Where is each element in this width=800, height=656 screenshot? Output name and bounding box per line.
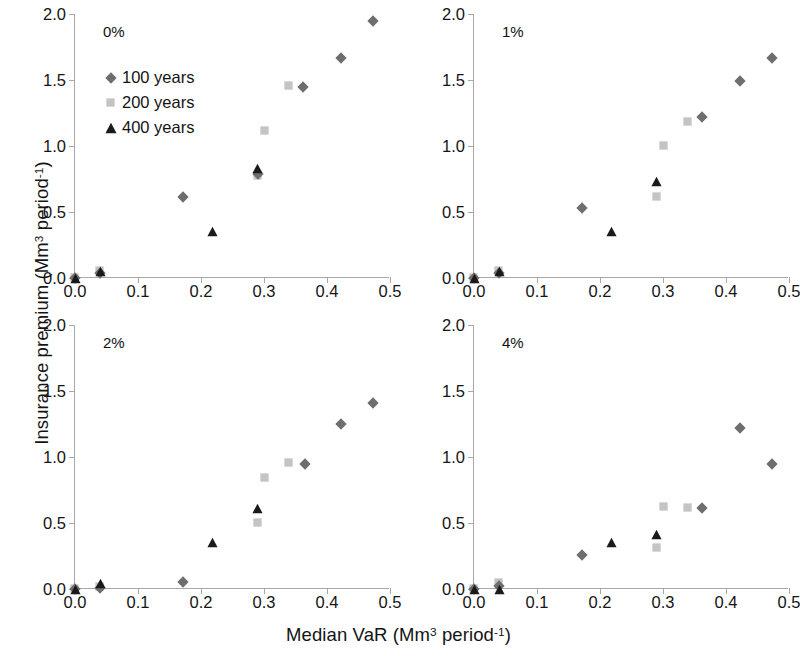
data-point-square bbox=[260, 473, 269, 482]
panel-label: 0% bbox=[103, 23, 125, 40]
data-point-triangle bbox=[95, 266, 106, 277]
plot-area: 0.00.51.01.52.00.00.10.20.30.40.5 bbox=[74, 325, 389, 589]
data-point-diamond bbox=[734, 75, 746, 87]
x-axis-tick-label: 0.4 bbox=[715, 593, 738, 612]
x-axis-tick-label: 0.1 bbox=[526, 282, 549, 301]
data-point-diamond bbox=[335, 52, 347, 64]
x-axis-tick-label: 0.0 bbox=[463, 593, 486, 612]
data-point-triangle bbox=[252, 503, 263, 514]
data-point-square bbox=[253, 518, 262, 527]
y-axis-tick bbox=[468, 391, 474, 392]
y-axis-tick-label: 1.5 bbox=[43, 71, 66, 90]
x-axis-tick-label: 0.5 bbox=[778, 282, 800, 301]
chart-panel-0pct: 0.00.51.01.52.00.00.10.20.30.40.5 0% 100… bbox=[74, 14, 389, 278]
y-axis-tick-label: 0.5 bbox=[442, 514, 465, 533]
y-axis-tick bbox=[69, 325, 75, 326]
y-axis-tick bbox=[69, 146, 75, 147]
y-axis-tick-label: 2.0 bbox=[43, 316, 66, 335]
y-axis-tick-label: 1.5 bbox=[43, 382, 66, 401]
y-axis-tick-label: 0.5 bbox=[442, 203, 465, 222]
x-axis-tick-label: 0.1 bbox=[127, 282, 150, 301]
legend-item-label: 200 years bbox=[122, 93, 194, 112]
y-axis-tick-label: 1.0 bbox=[43, 137, 66, 156]
x-axis-tick-label: 0.5 bbox=[379, 593, 402, 612]
y-axis-tick-label: 1.0 bbox=[442, 137, 465, 156]
chart-panel-2pct: 0.00.51.01.52.00.00.10.20.30.40.5 2% bbox=[74, 325, 389, 589]
y-axis-tick-label: 0.5 bbox=[43, 203, 66, 222]
data-point-triangle bbox=[95, 578, 106, 589]
panel-label: 2% bbox=[103, 334, 125, 351]
data-point-square bbox=[260, 126, 269, 135]
y-axis-tick bbox=[69, 212, 75, 213]
legend-item-label: 400 years bbox=[122, 118, 194, 137]
y-axis-tick-label: 1.0 bbox=[43, 448, 66, 467]
x-axis-tick-label: 0.2 bbox=[190, 282, 213, 301]
chart-panel-4pct: 0.00.51.01.52.00.00.10.20.30.40.5 4% bbox=[473, 325, 788, 589]
data-point-square bbox=[652, 543, 661, 552]
x-axis-tick-label: 0.3 bbox=[652, 593, 675, 612]
y-axis-tick bbox=[468, 146, 474, 147]
plot-area: 0.00.51.01.52.00.00.10.20.30.40.5 bbox=[74, 14, 389, 278]
legend-item: 100 years bbox=[102, 65, 194, 90]
x-axis-tick-label: 0.5 bbox=[379, 282, 402, 301]
data-point-triangle bbox=[252, 163, 263, 174]
data-point-triangle bbox=[207, 226, 218, 237]
x-axis-tick-label: 0.1 bbox=[127, 593, 150, 612]
y-axis-tick-label: 1.0 bbox=[442, 448, 465, 467]
data-point-square bbox=[284, 81, 293, 90]
y-axis-tick bbox=[69, 391, 75, 392]
x-axis-tick-label: 0.1 bbox=[526, 593, 549, 612]
x-axis-tick-label: 0.4 bbox=[316, 593, 339, 612]
data-point-triangle bbox=[469, 273, 480, 284]
data-point-square bbox=[659, 502, 668, 511]
data-point-square bbox=[652, 192, 661, 201]
data-point-diamond bbox=[734, 422, 746, 434]
data-point-diamond bbox=[576, 549, 588, 561]
y-axis-tick bbox=[468, 80, 474, 81]
y-axis-tick-label: 2.0 bbox=[442, 316, 465, 335]
x-axis-tick-label: 0.3 bbox=[253, 593, 276, 612]
data-point-square bbox=[683, 503, 692, 512]
data-point-square bbox=[284, 458, 293, 467]
panel-label: 4% bbox=[502, 334, 524, 351]
y-axis-tick bbox=[69, 523, 75, 524]
data-point-diamond bbox=[177, 191, 189, 203]
data-point-diamond bbox=[696, 111, 708, 123]
x-axis-tick-label: 0.0 bbox=[64, 593, 87, 612]
data-point-triangle bbox=[651, 176, 662, 187]
x-axis-tick-label: 0.3 bbox=[253, 282, 276, 301]
legend-item: 400 years bbox=[102, 115, 194, 140]
data-point-diamond bbox=[576, 202, 588, 214]
legend-triangle-icon bbox=[102, 119, 119, 136]
data-point-triangle bbox=[494, 584, 505, 595]
y-axis-tick bbox=[468, 457, 474, 458]
legend-item: 200 years bbox=[102, 90, 194, 115]
data-point-diamond bbox=[766, 458, 778, 470]
data-point-square bbox=[659, 141, 668, 150]
y-axis-tick-label: 2.0 bbox=[442, 5, 465, 24]
data-point-diamond bbox=[177, 576, 189, 588]
plot-area: 0.00.51.01.52.00.00.10.20.30.40.5 bbox=[473, 14, 788, 278]
y-axis-tick bbox=[69, 14, 75, 15]
data-point-triangle bbox=[70, 584, 81, 595]
x-axis-tick-label: 0.0 bbox=[64, 282, 87, 301]
x-axis-tick-label: 0.2 bbox=[190, 593, 213, 612]
chart-panel-1pct: 0.00.51.01.52.00.00.10.20.30.40.5 1% bbox=[473, 14, 788, 278]
data-point-triangle bbox=[651, 529, 662, 540]
y-axis-tick-label: 1.5 bbox=[442, 382, 465, 401]
data-point-diamond bbox=[367, 15, 379, 27]
data-point-triangle bbox=[469, 584, 480, 595]
legend-square-icon bbox=[102, 94, 119, 111]
y-axis-tick bbox=[468, 212, 474, 213]
x-axis-tick-label: 0.2 bbox=[589, 593, 612, 612]
x-axis-tick-label: 0.4 bbox=[316, 282, 339, 301]
data-point-triangle bbox=[207, 537, 218, 548]
y-axis-tick-label: 0.5 bbox=[43, 514, 66, 533]
data-point-triangle bbox=[70, 273, 81, 284]
data-point-diamond bbox=[766, 52, 778, 64]
x-axis-title: Median VaR (Mm3 period-1) bbox=[0, 624, 797, 646]
y-axis-tick-label: 2.0 bbox=[43, 5, 66, 24]
y-axis-tick-label: 1.5 bbox=[442, 71, 465, 90]
y-axis-tick bbox=[69, 457, 75, 458]
